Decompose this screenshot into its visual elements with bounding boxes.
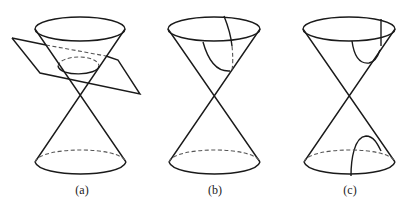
figure-c-hyperbola-section [303, 17, 395, 176]
section-ellipse-back [58, 57, 99, 66]
hyperbola-lower-branch [351, 136, 381, 176]
caption-c: (c) [335, 183, 365, 198]
cone-b-top-rim [168, 17, 260, 41]
caption-b: (b) [200, 183, 230, 198]
cone-c-bottom-rim-back [304, 150, 395, 162]
cone-a-top-rim [35, 17, 125, 41]
figure-a-ellipse-section [12, 17, 140, 174]
hyperbola-upper-branch [352, 41, 380, 63]
figure-b-parabola-section [168, 16, 260, 174]
cone-b-generators [168, 29, 260, 162]
cone-a-bottom-rim-front [35, 162, 126, 174]
caption-a: (a) [67, 183, 97, 198]
cone-a-bottom-rim-back [35, 150, 126, 162]
cone-b-bottom-rim-back [169, 150, 260, 162]
cone-c-generators [303, 29, 395, 162]
cone-b-bottom-rim-front [169, 162, 260, 174]
conic-sections-diagram [0, 0, 401, 212]
cone-c-bottom-rim-front [304, 162, 395, 174]
parabola-curve [203, 42, 230, 71]
cone-a-generators [35, 29, 126, 162]
